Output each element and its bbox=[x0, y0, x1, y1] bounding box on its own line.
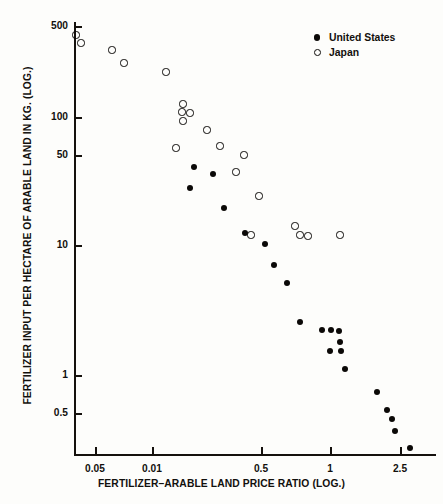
y-tick-label: 500 bbox=[34, 20, 68, 31]
data-point-united-states bbox=[187, 185, 194, 192]
x-tick-mark bbox=[330, 447, 332, 455]
legend-label-japan: Japan bbox=[326, 47, 359, 58]
data-point-united-states bbox=[374, 389, 381, 396]
data-point-japan bbox=[296, 231, 303, 238]
legend-item-japan: Japan bbox=[314, 45, 395, 60]
data-point-japan bbox=[247, 231, 254, 238]
y-tick-mark bbox=[74, 245, 82, 247]
y-tick-mark bbox=[74, 155, 82, 157]
data-point-united-states bbox=[342, 366, 349, 373]
data-point-united-states bbox=[389, 416, 396, 423]
scatter-chart-figure: 500100501010.5 0.050.010.512.5 United St… bbox=[0, 0, 443, 504]
data-point-united-states bbox=[221, 205, 228, 212]
data-point-japan bbox=[72, 31, 79, 38]
data-point-united-states bbox=[336, 328, 343, 335]
data-point-united-states bbox=[284, 280, 291, 287]
data-point-united-states bbox=[297, 319, 304, 326]
data-point-japan bbox=[120, 59, 127, 66]
y-axis-line bbox=[74, 22, 76, 456]
data-point-japan bbox=[179, 100, 186, 107]
data-point-japan bbox=[216, 142, 223, 149]
data-point-japan bbox=[179, 117, 186, 124]
data-point-united-states bbox=[271, 262, 278, 269]
data-point-united-states bbox=[392, 428, 399, 435]
data-point-japan bbox=[232, 168, 239, 175]
data-point-united-states bbox=[327, 348, 334, 355]
data-point-united-states bbox=[328, 327, 335, 334]
filled-circle-icon bbox=[314, 34, 326, 40]
data-point-japan bbox=[162, 68, 169, 75]
y-tick-mark bbox=[74, 413, 82, 415]
y-tick-label: 1 bbox=[34, 369, 68, 380]
x-tick-label: 0.5 bbox=[241, 463, 281, 474]
data-point-japan bbox=[291, 222, 298, 229]
y-tick-mark bbox=[74, 26, 82, 28]
x-tick-label: 0.01 bbox=[132, 463, 172, 474]
data-point-united-states bbox=[210, 171, 217, 178]
data-point-united-states bbox=[262, 241, 269, 248]
y-tick-mark bbox=[74, 375, 82, 377]
x-tick-mark bbox=[95, 447, 97, 455]
data-point-japan bbox=[304, 232, 311, 239]
legend-item-united-states: United States bbox=[314, 30, 395, 45]
data-point-japan bbox=[178, 108, 185, 115]
data-point-united-states bbox=[337, 339, 344, 346]
data-point-japan bbox=[186, 109, 193, 116]
y-tick-label: 10 bbox=[34, 239, 68, 250]
y-tick-mark bbox=[74, 117, 82, 119]
data-point-united-states bbox=[384, 407, 391, 414]
open-circle-icon bbox=[314, 49, 326, 56]
x-axis-title: FERTILIZER–ARABLE LAND PRICE RATIO (LOG.… bbox=[0, 478, 443, 489]
data-point-japan bbox=[240, 151, 247, 158]
chart-legend: United States Japan bbox=[314, 30, 395, 60]
x-tick-label: 0.05 bbox=[75, 463, 115, 474]
x-tick-label: 2.5 bbox=[380, 463, 420, 474]
x-axis-line bbox=[74, 454, 436, 456]
data-point-united-states bbox=[319, 327, 326, 334]
x-tick-label: 1 bbox=[310, 463, 350, 474]
data-point-japan bbox=[255, 192, 262, 199]
y-tick-label: 50 bbox=[34, 149, 68, 160]
data-point-japan bbox=[172, 144, 179, 151]
data-point-united-states bbox=[338, 348, 345, 355]
x-tick-mark bbox=[152, 447, 154, 455]
y-tick-label: 100 bbox=[34, 111, 68, 122]
data-point-united-states bbox=[191, 164, 198, 171]
data-point-japan bbox=[203, 126, 210, 133]
legend-label-united-states: United States bbox=[326, 32, 395, 43]
data-point-japan bbox=[108, 46, 115, 53]
x-tick-mark bbox=[400, 447, 402, 455]
data-point-japan bbox=[77, 39, 84, 46]
data-point-japan bbox=[336, 231, 343, 238]
x-tick-mark bbox=[261, 447, 263, 455]
data-point-united-states bbox=[407, 445, 414, 452]
y-axis-title: FERTILIZER INPUT PER HECTARE OF ARABLE L… bbox=[22, 21, 33, 451]
y-tick-label: 0.5 bbox=[34, 407, 68, 418]
